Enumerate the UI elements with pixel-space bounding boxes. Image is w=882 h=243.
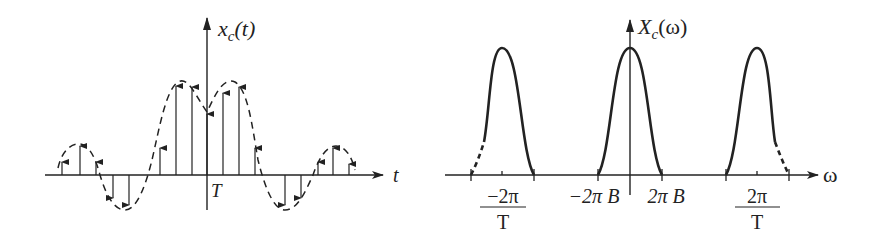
- omega-axis-label: ω: [823, 162, 837, 187]
- spectrum-left-overlap: [471, 142, 484, 175]
- spectrum-left-replica: [484, 48, 534, 175]
- tick-neg-2pi-over-T-num: −2π: [487, 185, 518, 207]
- tick-pos-2pi-over-T-num: 2π: [747, 185, 767, 207]
- left-plot: xc(t) t T: [45, 16, 399, 210]
- Xc-axis-label: Xc(ω): [637, 14, 687, 42]
- tick-neg-2piB: −2π B: [569, 185, 620, 207]
- spectrum-right-overlap: [775, 142, 789, 175]
- Xc-axis-arrow-icon: [626, 19, 634, 32]
- xc-axis-label: xc(t): [217, 16, 255, 44]
- tick-label-T: T: [211, 180, 223, 201]
- tick-pos-2piB: 2π B: [647, 185, 684, 207]
- right-plot: Xc(ω) ω −2π T −2π B 2π B 2π T: [445, 14, 837, 233]
- tick-neg-2pi-over-T-den: T: [497, 211, 509, 233]
- t-axis-label: t: [393, 164, 399, 186]
- tick-pos-2pi-over-T-den: T: [751, 211, 763, 233]
- figure: xc(t) t T Xc(ω): [0, 0, 882, 243]
- spectrum-right-replica: [726, 48, 775, 175]
- sample-stems: [62, 86, 349, 205]
- xc-axis-arrow-icon: [203, 17, 211, 30]
